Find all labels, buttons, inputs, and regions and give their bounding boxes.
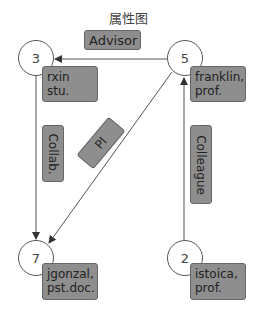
edge-label-advisor: Advisor	[84, 30, 141, 50]
node-7-label-name: jgonzal,	[47, 267, 93, 281]
node-2-label-name: istoica,	[195, 267, 241, 281]
edge-label-colleague: Colleague	[190, 125, 212, 204]
node-5-label-role: prof.	[195, 84, 241, 98]
node-2-label: istoica, prof.	[190, 263, 246, 300]
edge-label-colleague-text: Colleague	[194, 135, 208, 195]
edge-label-collab: Collab.	[42, 125, 64, 182]
node-5-label: franklin, prof.	[190, 66, 246, 102]
edge-label-collab-text: Collab.	[46, 133, 60, 174]
node-7-label-role: pst.doc.	[47, 281, 93, 295]
node-3-label-name: rxin	[47, 70, 93, 84]
node-2-id: 2	[181, 251, 189, 266]
edge-label-pi-text: PI	[92, 134, 110, 151]
node-5-id: 5	[181, 51, 189, 66]
node-7-id: 7	[32, 251, 40, 266]
node-5-label-name: franklin,	[195, 70, 241, 84]
node-3-id: 3	[32, 51, 40, 66]
node-3-label-role: stu.	[47, 84, 93, 98]
node-7-label: jgonzal, pst.doc.	[42, 263, 98, 300]
node-3-label: rxin stu.	[42, 66, 98, 102]
node-2-label-role: prof.	[195, 281, 241, 295]
